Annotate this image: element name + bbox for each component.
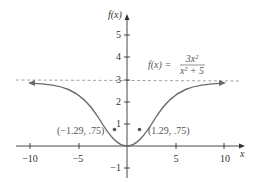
y-axis-arrow-icon <box>125 14 130 20</box>
inflection-point-right <box>138 128 142 132</box>
y-tick-label: 5 <box>116 29 121 40</box>
y-tick-label: 4 <box>116 51 121 62</box>
annotation-right: (1.29, .75) <box>148 125 190 137</box>
inflection-point-left <box>113 128 117 132</box>
y-tick-label: 3 <box>116 74 121 85</box>
x-tick-label: 5 <box>174 153 179 164</box>
function-denominator: x² + 5 <box>179 65 204 76</box>
function-numerator: 3x² <box>185 53 199 64</box>
x-tick-label: −5 <box>73 153 84 164</box>
x-tick-label: 10 <box>220 153 230 164</box>
function-label-lhs: f(x) = <box>148 59 171 71</box>
annotation-left: (−1.29, .75) <box>57 125 104 137</box>
x-axis-label: x <box>239 148 245 159</box>
y-tick-label: 2 <box>116 96 121 107</box>
right-arrow-icon <box>219 80 226 86</box>
y-tick-label: 1 <box>116 118 121 129</box>
left-arrow-icon <box>28 80 35 86</box>
x-tick-label: −10 <box>22 153 38 164</box>
y-axis-label: f(x) <box>108 9 123 21</box>
chart: −10 −5 5 10 x −1 1 2 3 4 5 f(x) (−1.29, … <box>0 0 259 182</box>
y-tick-label: −1 <box>110 162 121 173</box>
